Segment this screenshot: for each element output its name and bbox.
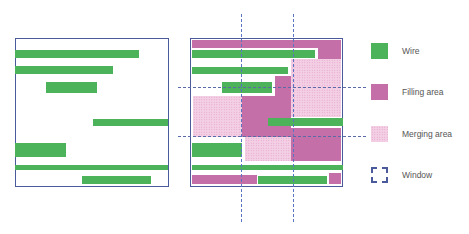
filling-area [192, 175, 257, 184]
filling-area [318, 48, 341, 59]
wire [46, 82, 97, 93]
window-line-vertical [293, 14, 294, 222]
legend-label-merging: Merging area [402, 129, 452, 139]
wire [82, 176, 151, 184]
merging-area [245, 137, 291, 161]
wire [192, 165, 343, 170]
wire-swatch-icon [371, 43, 388, 59]
wire [192, 50, 315, 58]
wire [268, 118, 343, 126]
wire [15, 143, 66, 157]
merging-area [193, 96, 242, 137]
wire [192, 143, 242, 157]
wire [15, 165, 168, 170]
legend-label-wire: Wire [402, 46, 419, 56]
filling-area [242, 96, 291, 137]
legend-item-filling: Filling area [371, 84, 444, 100]
wire [15, 66, 113, 74]
legend-item-window: Window [371, 167, 432, 183]
filling-area [192, 40, 341, 48]
window-swatch-icon [371, 167, 388, 183]
filling-swatch-icon [371, 84, 388, 100]
filling-area [291, 128, 341, 161]
window-line-horizontal [178, 136, 366, 137]
window-line-vertical [241, 14, 242, 222]
filling-area [329, 173, 341, 184]
wire [93, 119, 168, 126]
legend-label-filling: Filling area [402, 87, 444, 97]
legend-item-merging: Merging area [371, 126, 452, 142]
wire [15, 50, 139, 58]
window-line-horizontal [178, 87, 366, 88]
wire [192, 67, 288, 74]
legend-label-window: Window [402, 170, 432, 180]
merging-swatch-icon [371, 126, 388, 142]
legend-item-wire: Wire [371, 43, 419, 59]
merging-area [291, 59, 341, 117]
